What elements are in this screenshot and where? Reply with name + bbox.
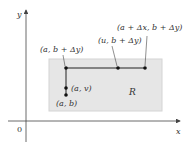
x-axis-label: x <box>176 127 181 136</box>
point-a-plus-dx-b-plus-dy <box>143 66 147 70</box>
label-a-v: (a, v) <box>71 84 92 93</box>
label-a-b: (a, b) <box>56 99 77 108</box>
origin-label: 0 <box>17 125 22 134</box>
point-u-b-plus-dy <box>116 66 120 70</box>
point-a-b-plus-dy <box>64 66 68 70</box>
point-a-v <box>64 86 68 90</box>
point-a-b <box>64 93 68 97</box>
diagram-canvas: y x 0 (a, b + Δy) (u, b + Δy) (a + Δx, b… <box>0 0 184 145</box>
label-u-b-plus-dy: (u, b + Δy) <box>98 36 142 45</box>
region-label: R <box>128 87 136 97</box>
label-a-b-plus-dy: (a, b + Δy) <box>40 45 83 54</box>
label-a-plus-dx-b-plus-dy: (a + Δx, b + Δy) <box>117 23 182 32</box>
y-axis-label: y <box>16 10 22 19</box>
